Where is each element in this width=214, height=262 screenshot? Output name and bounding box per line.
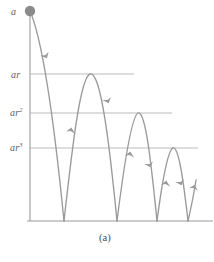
arrow-down-icon-3: [144, 161, 154, 168]
label-a: a: [11, 7, 16, 17]
label-ar-cubed: ar3: [10, 143, 23, 153]
label-ar-squared: ar2: [10, 108, 23, 118]
label-ar: ar: [11, 70, 20, 80]
trajectory-initial-drop: [30, 11, 64, 221]
trajectory-bounce-2: [117, 113, 157, 221]
ball-marker-icon: [25, 6, 35, 16]
bouncing-ball-figure: a ar ar2 ar3 (a): [0, 0, 214, 262]
label-ar-squared-exponent: 2: [19, 106, 22, 113]
arrow-down-icon-2: [102, 97, 112, 105]
label-ar-cubed-base: ar: [10, 142, 19, 153]
label-ar-cubed-exponent: 3: [19, 141, 22, 148]
label-ar-squared-base: ar: [10, 107, 19, 118]
trajectory-bounce-1: [64, 74, 117, 221]
figure-caption: (a): [99, 233, 111, 244]
trajectory-diagram-svg: [0, 0, 214, 262]
